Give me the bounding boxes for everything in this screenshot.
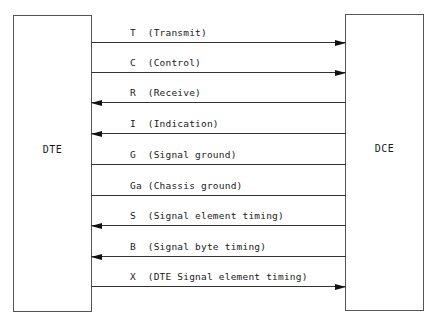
arrow-right-icon: [335, 284, 346, 290]
signal-label: I (Indication): [130, 118, 219, 129]
signal-line: [91, 164, 346, 165]
signal-line: [91, 256, 346, 257]
signal-label: G (Signal ground): [130, 149, 237, 160]
signal-g: G (Signal ground): [91, 137, 346, 165]
signal-c: C (Control): [91, 45, 346, 73]
signal-i: I (Indication): [91, 106, 346, 134]
signal-line: [91, 72, 346, 73]
signal-s: S (Signal element timing): [91, 198, 346, 226]
signal-label: Ga (Chassis ground): [130, 180, 242, 191]
signal-label: X (DTE Signal element timing): [130, 271, 308, 282]
signal-label: T (Transmit): [130, 27, 207, 38]
dte-box: DTE: [13, 15, 92, 312]
signal-line: [91, 225, 346, 226]
dce-label: DCE: [346, 143, 423, 154]
signal-line: [91, 102, 346, 103]
signal-ga: Ga (Chassis ground): [91, 168, 346, 196]
signal-label: C (Control): [130, 57, 201, 68]
signal-r: R (Receive): [91, 75, 346, 103]
signal-line: [91, 42, 346, 43]
dte-label: DTE: [14, 144, 91, 155]
signal-label: S (Signal element timing): [130, 210, 284, 221]
signal-label: R (Receive): [130, 87, 201, 98]
signal-line: [91, 195, 346, 196]
signal-line: [91, 133, 346, 134]
dce-box: DCE: [345, 14, 424, 311]
signal-x: X (DTE Signal element timing): [91, 259, 346, 287]
signal-line: [91, 286, 346, 287]
signal-label: B (Signal byte timing): [130, 241, 266, 252]
signal-t: T (Transmit): [91, 15, 346, 43]
signal-b: B (Signal byte timing): [91, 229, 346, 257]
